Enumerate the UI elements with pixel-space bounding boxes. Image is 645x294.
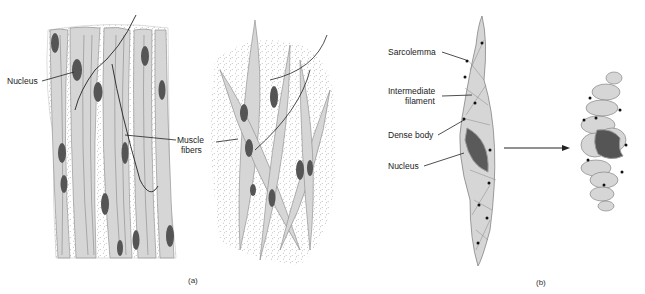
- panel-a-cross-section-tissue: [211, 20, 336, 265]
- label-intermediate-line1: Intermediate: [388, 86, 435, 96]
- caption-panel-a: (a): [188, 276, 198, 285]
- label-intermediate-line2: filament: [405, 96, 435, 106]
- label-nucleus-b: Nucleus: [388, 161, 419, 171]
- panel-a-longitudinal-tissue: [47, 15, 176, 258]
- panel-b-relaxed-cell: [460, 16, 496, 266]
- caption-panel-b: (b): [536, 278, 546, 287]
- label-nucleus-a: Nucleus: [7, 76, 38, 86]
- contraction-arrow: [504, 145, 570, 151]
- panel-b-contracted-cell: [581, 72, 628, 211]
- label-muscle-fibers-line1: Muscle: [177, 135, 204, 145]
- smooth-muscle-figure: Nucleus Muscle fibers (a) Sarcolemma Int…: [0, 0, 645, 294]
- diagram-artwork: [0, 0, 645, 294]
- label-sarcolemma: Sarcolemma: [388, 47, 436, 57]
- label-dense-body: Dense body: [388, 130, 433, 140]
- label-muscle-fibers-line2: fibers: [181, 145, 202, 155]
